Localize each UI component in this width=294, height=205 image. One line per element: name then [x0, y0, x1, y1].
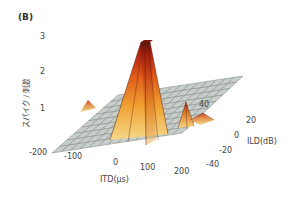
y-tick-0: 0	[234, 131, 239, 140]
peak-main	[110, 40, 168, 145]
x-tick-100: 100	[140, 163, 155, 172]
y-tick-minus40: -40	[206, 160, 219, 169]
x-tick-200: 200	[174, 167, 189, 176]
x-tick-minus100: -100	[64, 152, 82, 161]
z-tick-2: 2	[40, 67, 45, 76]
y-tick-40: 40	[199, 100, 209, 109]
x-tick-0: 0	[113, 158, 118, 167]
z-tick-1: 1	[40, 104, 45, 113]
x-axis-title: ITD(μs)	[100, 175, 129, 184]
y-tick-20: 20	[246, 116, 256, 125]
y-axis-title: ILD(dB)	[247, 137, 277, 146]
y-tick-minus20: -20	[219, 146, 232, 155]
x-tick-minus200: -200	[29, 148, 47, 157]
z-tick-3: 3	[40, 32, 45, 41]
z-axis-label: スパイク / 刺激	[20, 79, 31, 128]
surface-plot	[0, 0, 294, 205]
peak-left	[80, 100, 96, 112]
